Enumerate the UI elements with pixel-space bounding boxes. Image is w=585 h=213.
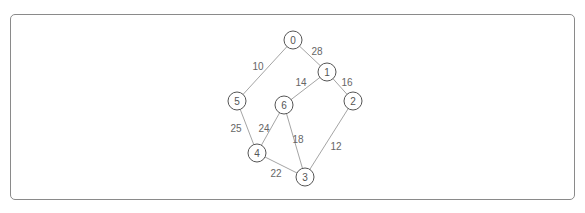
- node-label: 6: [281, 100, 287, 111]
- graph-diagram: 281014162524181222 0123456: [0, 0, 585, 213]
- graph-node-1: 1: [318, 63, 336, 81]
- edge-weight-label: 18: [292, 134, 304, 145]
- graph-node-4: 4: [248, 144, 266, 162]
- edge-0-5: [237, 40, 293, 101]
- edge-weight-label: 10: [252, 61, 264, 72]
- edge-weight-label: 22: [270, 168, 282, 179]
- graph-node-6: 6: [275, 96, 293, 114]
- edge-weight-label: 12: [330, 141, 342, 152]
- weights-layer: 281014162524181222: [230, 46, 353, 179]
- edge-weight-label: 25: [230, 123, 242, 134]
- graph-node-2: 2: [344, 92, 362, 110]
- edge-2-3: [305, 101, 353, 177]
- node-label: 1: [324, 67, 330, 78]
- node-label: 0: [290, 35, 296, 46]
- edge-weight-label: 14: [295, 77, 307, 88]
- graph-node-3: 3: [296, 168, 314, 186]
- graph-node-0: 0: [284, 31, 302, 49]
- node-label: 2: [350, 96, 356, 107]
- nodes-layer: 0123456: [228, 31, 362, 186]
- edge-weight-label: 16: [341, 77, 353, 88]
- node-label: 3: [302, 172, 308, 183]
- edge-weight-label: 28: [311, 46, 323, 57]
- edge-weight-label: 24: [258, 123, 270, 134]
- node-label: 4: [254, 148, 260, 159]
- node-label: 5: [234, 96, 240, 107]
- graph-node-5: 5: [228, 92, 246, 110]
